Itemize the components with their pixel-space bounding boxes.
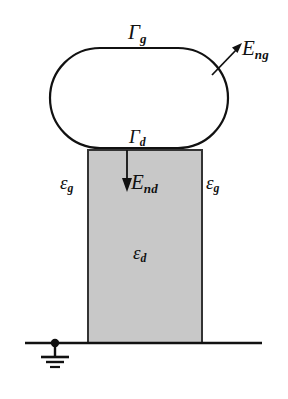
label-e-ng: Eng: [242, 38, 269, 61]
label-gamma-g: Γg: [128, 22, 147, 45]
label-e-nd: End: [131, 172, 158, 195]
label-epsilon-d: εd: [133, 243, 147, 265]
label-e-nd-symbol: E: [131, 170, 144, 194]
normal-field-gate-arrow: [212, 43, 242, 75]
label-gamma-g-symbol: Γ: [128, 20, 140, 44]
label-epsilon-g-right: εg: [206, 173, 220, 195]
label-e-ng-symbol: E: [242, 36, 255, 60]
label-gamma-g-subscript: g: [140, 31, 147, 46]
label-epsilon-d-symbol: ε: [133, 242, 141, 263]
label-e-nd-subscript: nd: [144, 181, 158, 196]
figure-caption: [0, 391, 288, 399]
label-gamma-d-subscript: d: [140, 136, 146, 149]
label-epsilon-g-right-symbol: ε: [206, 172, 214, 193]
label-epsilon-g-right-subscript: g: [214, 182, 220, 195]
e-ng-arrow-shaft: [212, 48, 238, 75]
label-epsilon-d-subscript: d: [141, 252, 147, 265]
label-gamma-d-symbol: Γ: [129, 126, 140, 147]
label-epsilon-g-left: εg: [60, 173, 74, 195]
label-e-ng-subscript: ng: [255, 47, 269, 62]
figure-root: Γg Γd Eng End εg εg εd: [0, 0, 288, 399]
label-epsilon-g-left-symbol: ε: [60, 172, 68, 193]
label-epsilon-g-left-subscript: g: [68, 182, 74, 195]
label-gamma-d: Γd: [129, 127, 146, 149]
